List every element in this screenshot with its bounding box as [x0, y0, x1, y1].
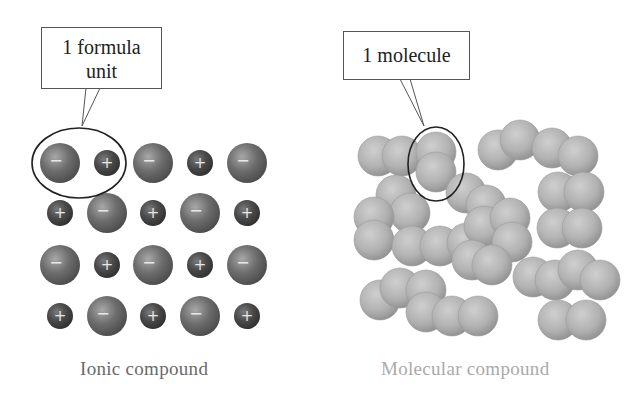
plus-sign-icon: + [194, 154, 207, 172]
formula-unit-callout-line2: unit [42, 59, 161, 83]
molecule [538, 300, 606, 340]
plus-sign-icon: + [194, 256, 207, 274]
anion-sphere: − [180, 193, 220, 233]
minus-sign-icon: − [236, 151, 249, 170]
anion-sphere: − [87, 193, 127, 233]
plus-sign-icon: + [54, 204, 67, 222]
anion-sphere: − [227, 245, 267, 285]
molecular-compound-caption: Molecular compound [381, 358, 549, 380]
cation-sphere: + [47, 200, 73, 226]
molecule [478, 120, 540, 170]
plus-sign-icon: + [101, 256, 114, 274]
molecule-callout: 1 molecule [343, 31, 470, 80]
molecule [537, 208, 602, 248]
ionic-compound-caption: Ionic compound [80, 358, 208, 380]
minus-sign-icon: − [236, 253, 249, 272]
molecule-pointer [400, 79, 424, 126]
cation-sphere: + [94, 252, 120, 278]
cation-sphere: + [187, 252, 213, 278]
minus-sign-icon: − [142, 253, 155, 272]
anion-sphere: − [133, 245, 173, 285]
cation-sphere: + [187, 150, 213, 176]
molecule [432, 296, 498, 336]
anion-sphere: − [133, 143, 173, 183]
molecule [538, 172, 604, 212]
anion-sphere: − [40, 245, 80, 285]
plus-sign-icon: + [54, 307, 67, 325]
minus-sign-icon: − [189, 304, 202, 323]
formula-unit-pointer [82, 88, 100, 126]
molecular-solid [354, 120, 620, 340]
cation-sphere: + [234, 303, 260, 329]
molecule [532, 128, 598, 176]
anion-sphere: − [40, 143, 80, 183]
minus-sign-icon: − [142, 151, 155, 170]
minus-sign-icon: − [189, 201, 202, 220]
anion-sphere: − [87, 296, 127, 336]
molecule [354, 197, 394, 260]
cation-sphere: + [140, 303, 166, 329]
minus-sign-icon: − [49, 253, 62, 272]
anion-sphere: − [180, 296, 220, 336]
molecule-callout-text: 1 molecule [344, 43, 469, 67]
plus-sign-icon: + [241, 307, 254, 325]
minus-sign-icon: − [49, 151, 62, 170]
plus-sign-icon: + [241, 204, 254, 222]
ionic-lattice: −+−+−+−+−+−+−+−+−+−+ [40, 143, 267, 336]
anion-sphere: − [227, 143, 267, 183]
plus-sign-icon: + [147, 307, 160, 325]
cation-sphere: + [47, 303, 73, 329]
plus-sign-icon: + [101, 154, 114, 172]
plus-sign-icon: + [147, 204, 160, 222]
cation-sphere: + [234, 200, 260, 226]
minus-sign-icon: − [96, 201, 109, 220]
minus-sign-icon: − [96, 304, 109, 323]
cation-sphere: + [94, 150, 120, 176]
molecule [358, 136, 422, 176]
cation-sphere: + [140, 200, 166, 226]
formula-unit-callout-line1: 1 formula [42, 35, 161, 59]
formula-unit-callout: 1 formula unit [41, 27, 162, 89]
